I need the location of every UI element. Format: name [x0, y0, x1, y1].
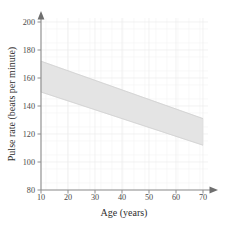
y-axis-title: Pulse rate (beats per minute)	[6, 47, 18, 161]
x-axis-tick-labels: 10 20 30 40 50 60 70	[37, 193, 207, 202]
x-axis-title: Age (years)	[101, 207, 148, 219]
x-tick-label-30: 30	[91, 193, 99, 202]
x-tick-label-70: 70	[199, 193, 207, 202]
y-axis-tick-labels: 80 100 120 140 160 180 200	[23, 18, 35, 195]
x-tick-label-20: 20	[64, 193, 72, 202]
y-tick-label-180: 180	[23, 46, 35, 55]
y-tick-label-100: 100	[23, 158, 35, 167]
x-tick-label-50: 50	[145, 193, 153, 202]
y-tick-label-200: 200	[23, 18, 35, 27]
y-tick-label-140: 140	[23, 102, 35, 111]
y-tick-label-120: 120	[23, 130, 35, 139]
chart-container: 80 100 120 140 160 180 200 10 20 30 40 5…	[0, 0, 227, 227]
x-tick-label-40: 40	[118, 193, 126, 202]
x-tick-label-10: 10	[37, 193, 45, 202]
y-tick-label-160: 160	[23, 74, 35, 83]
x-tick-label-60: 60	[172, 193, 180, 202]
pulse-rate-chart: 80 100 120 140 160 180 200 10 20 30 40 5…	[0, 0, 227, 227]
y-tick-label-80: 80	[27, 186, 35, 195]
